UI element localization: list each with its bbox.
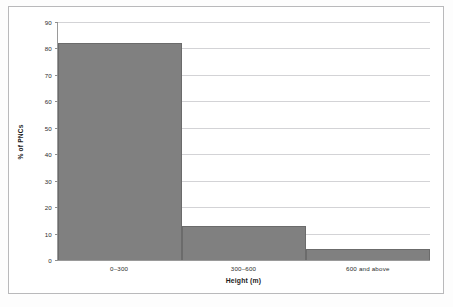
x-axis-tick-labels: 0–300300–600600 and above — [57, 265, 430, 272]
chart-figure: % of PNCs 0102030405060708090 0–300300–6… — [0, 0, 453, 307]
y-axis-tick-label: 60 — [45, 98, 52, 105]
y-axis-tick-mark — [55, 260, 58, 261]
bars-group — [58, 22, 430, 260]
y-axis-tick-label: 90 — [45, 19, 52, 26]
x-axis-title: Height (m) — [57, 277, 430, 284]
bar-1 — [58, 43, 182, 260]
y-axis-tick-label: 10 — [45, 230, 52, 237]
plot-area: 0102030405060708090 — [57, 22, 430, 261]
x-axis-tick-label-3: 600 and above — [306, 265, 430, 272]
y-axis-tick-label: 80 — [45, 45, 52, 52]
y-axis-tick-label: 70 — [45, 71, 52, 78]
y-axis-tick-label: 20 — [45, 204, 52, 211]
bar-3 — [306, 249, 430, 260]
y-axis-tick-label: 50 — [45, 124, 52, 131]
x-axis-tick-label-1: 0–300 — [57, 265, 181, 272]
y-axis-title: % of PNCs — [17, 124, 24, 159]
x-axis-tick-label-2: 300–600 — [181, 265, 305, 272]
y-axis-tick-label: 30 — [45, 177, 52, 184]
y-axis-tick-label: 0 — [48, 257, 52, 264]
y-axis-tick-label: 40 — [45, 151, 52, 158]
bar-2 — [182, 226, 306, 260]
